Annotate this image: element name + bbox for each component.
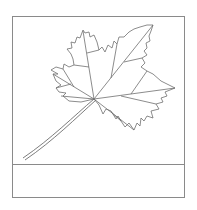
flashcard [12,16,185,198]
maple-leaf-illustration [13,17,184,164]
caption-area [13,165,184,197]
maple-leaf-icon [13,17,184,164]
